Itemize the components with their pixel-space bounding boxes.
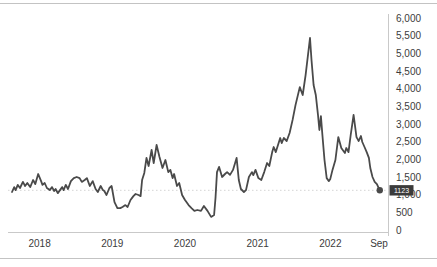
x-tick-label: 2019 (101, 238, 124, 249)
y-tick-label: 3,000 (396, 119, 421, 130)
y-tick-label: 6,000 (396, 13, 421, 24)
x-tick-label: Sep (370, 238, 388, 249)
last-value-badge-text: 1123 (394, 187, 409, 194)
x-tick-label: 2018 (28, 238, 51, 249)
y-tick-label: 1,500 (396, 172, 421, 183)
y-tick-label: 2,500 (396, 136, 421, 147)
y-tick-label: 5,000 (396, 48, 421, 59)
y-tick-label: 2,000 (396, 154, 421, 165)
y-tick-label: 5,500 (396, 30, 421, 41)
y-tick-label: 0 (396, 225, 402, 236)
last-value-marker (377, 187, 383, 193)
x-tick-label: 2022 (319, 238, 342, 249)
chart-panel: 05001,0001,5002,0002,5003,0003,5004,0004… (0, 0, 437, 267)
y-tick-label: 4,500 (396, 66, 421, 77)
x-tick-label: 2021 (247, 238, 270, 249)
y-tick-label: 4,000 (396, 83, 421, 94)
bottom-divider (0, 258, 437, 259)
y-tick-label: 500 (396, 207, 413, 218)
price-line-chart-svg: 05001,0001,5002,0002,5003,0003,5004,0004… (0, 0, 437, 267)
y-tick-label: 3,500 (396, 101, 421, 112)
x-tick-label: 2020 (174, 238, 197, 249)
